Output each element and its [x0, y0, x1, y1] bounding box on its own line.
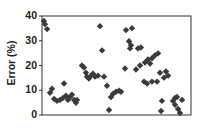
data-point-diamond [129, 25, 135, 31]
data-point-diamond [99, 47, 105, 53]
scatter-chart: Error (%) 010203040 [0, 0, 200, 131]
data-point-diamond [137, 62, 143, 68]
data-point-diamond [122, 65, 128, 71]
data-point-diamond [104, 83, 110, 89]
data-point-diamond [159, 98, 165, 104]
data-point-diamond [97, 23, 103, 29]
data-point-diamond [158, 108, 164, 114]
data-point-diamond [154, 78, 160, 84]
data-point-diamond [157, 69, 163, 75]
data-points [41, 18, 186, 116]
data-point-diamond [101, 73, 107, 79]
data-point-diamond [179, 97, 185, 103]
data-point-diamond [123, 27, 129, 33]
plot-area [0, 0, 200, 131]
data-point-diamond [106, 107, 112, 113]
data-point-diamond [133, 66, 139, 72]
plot-frame [42, 16, 191, 115]
data-point-diamond [61, 80, 67, 86]
